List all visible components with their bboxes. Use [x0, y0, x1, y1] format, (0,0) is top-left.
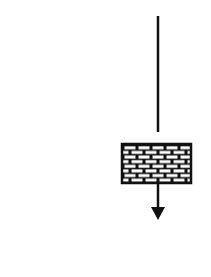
down-arrow-icon	[151, 183, 165, 220]
diagram-canvas	[0, 0, 211, 277]
brick-block	[122, 144, 191, 183]
